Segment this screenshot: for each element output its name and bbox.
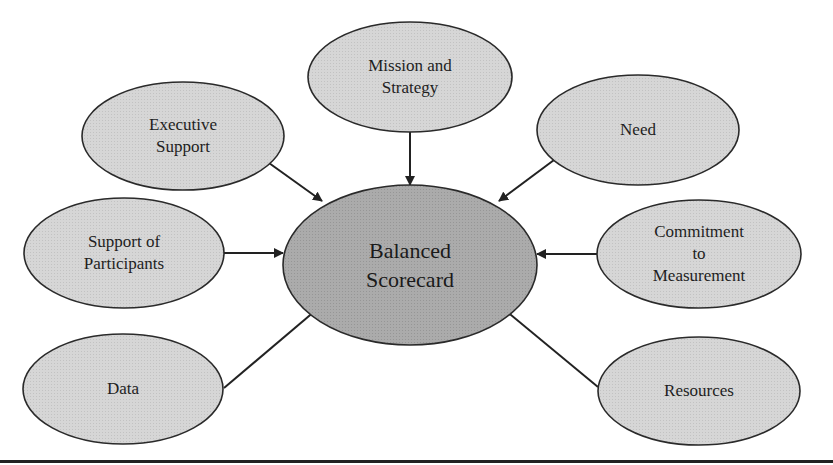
balanced-scorecard-ellipse xyxy=(283,185,537,345)
support-of-participants-ellipse xyxy=(24,198,224,308)
resources-ellipse xyxy=(598,337,800,445)
bottom-rule xyxy=(0,460,833,463)
data-ellipse xyxy=(23,334,223,444)
nodes-layer xyxy=(23,22,801,445)
resources-arrow-icon xyxy=(499,305,598,387)
executive-support-arrow-icon xyxy=(269,163,322,201)
need-ellipse xyxy=(537,75,739,185)
mission-and-strategy-ellipse xyxy=(308,22,512,132)
need-arrow-icon xyxy=(499,160,554,201)
balanced-scorecard-diagram xyxy=(0,0,833,465)
data-arrow-icon xyxy=(224,305,322,388)
executive-support-ellipse xyxy=(82,82,284,190)
commitment-to-measurement-ellipse xyxy=(597,200,801,308)
